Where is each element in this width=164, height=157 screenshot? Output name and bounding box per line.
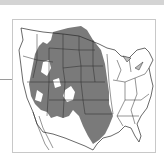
- baja-california: [33, 112, 53, 150]
- top-band: [0, 0, 164, 5]
- range-area: [29, 26, 113, 144]
- range-map: Species range map — western and central …: [12, 19, 156, 153]
- us-map-svg: [13, 20, 157, 154]
